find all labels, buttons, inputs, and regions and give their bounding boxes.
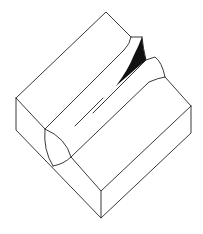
- groove-edges: [45, 37, 191, 157]
- weld-cross-section: [45, 129, 71, 166]
- weld-block-diagram: [0, 0, 203, 234]
- left-block-top-face: [16, 12, 131, 129]
- block-side-faces: [16, 98, 191, 218]
- groove-shadow: [116, 37, 146, 86]
- diagram-canvas: [0, 0, 203, 234]
